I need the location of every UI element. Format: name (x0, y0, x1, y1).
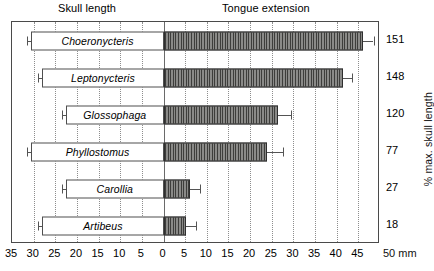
tongue-error-cap (291, 110, 292, 119)
x-axis-tick-label: 10 (200, 247, 212, 259)
skull-error-cap (38, 73, 39, 82)
tongue-extension-bar[interactable] (164, 31, 363, 50)
species-row: Choeronycteris (12, 22, 378, 59)
pct-max-skull-length-value: 27 (386, 181, 398, 193)
skull-length-bar[interactable]: Artibeus (42, 216, 163, 235)
species-row: Artibeus (12, 207, 378, 244)
pct-max-skull-length-value: 18 (386, 218, 398, 230)
species-label: Phyllostomus (66, 146, 130, 158)
x-axis-tick-label: 30 (27, 247, 39, 259)
x-axis-tick-label: 5 (181, 247, 187, 259)
species-row: Carollia (12, 170, 378, 207)
bars-layer: ChoeronycterisLeptonycterisGlossophagaPh… (12, 22, 378, 242)
x-axis-tick-label: 5 (138, 247, 144, 259)
x-axis-unit-label: 50 mm (383, 247, 417, 259)
tongue-error-cap (196, 221, 197, 230)
skull-error-cap (62, 110, 63, 119)
skull-error-cap (27, 36, 28, 45)
x-axis-tick-label: 20 (243, 247, 255, 259)
tongue-error-cap (283, 147, 284, 156)
x-axis-tick-label: 25 (265, 247, 277, 259)
species-label: Carollia (97, 183, 133, 195)
tongue-extension-bar[interactable] (164, 105, 279, 124)
skull-length-bar[interactable]: Glossophaga (66, 105, 163, 124)
right-axis-title: % max. skull length (422, 92, 434, 186)
x-axis-tick-label: 30 (286, 247, 298, 259)
x-axis-tick-label: 40 (330, 247, 342, 259)
skull-length-bar[interactable]: Carollia (66, 179, 163, 198)
tongue-extension-bar[interactable] (164, 216, 187, 235)
x-axis-tick-label: 25 (48, 247, 60, 259)
x-axis-tick-label: 15 (91, 247, 103, 259)
left-panel-title: Skull length (58, 2, 116, 14)
x-axis-tick-label: 35 (5, 247, 17, 259)
pct-max-skull-length-value: 120 (386, 107, 404, 119)
tongue-extension-bar[interactable] (164, 142, 268, 161)
tongue-error-bar (267, 152, 282, 153)
x-axis-tick-label: 45 (351, 247, 363, 259)
species-label: Choeronycteris (61, 35, 133, 47)
tongue-extension-bar[interactable] (164, 68, 344, 87)
right-panel-title: Tongue extension (222, 2, 310, 14)
species-label: Artibeus (83, 220, 122, 232)
x-axis-tick-label: 10 (113, 247, 125, 259)
tongue-error-cap (374, 36, 375, 45)
skull-error-cap (27, 147, 28, 156)
tongue-error-bar (190, 189, 200, 190)
species-label: Glossophaga (83, 109, 146, 121)
tongue-error-bar (363, 41, 374, 42)
pct-max-skull-length-value: 148 (386, 70, 404, 82)
tongue-error-bar (278, 115, 291, 116)
tongue-error-bar (343, 78, 352, 79)
pct-max-skull-length-value: 77 (386, 144, 398, 156)
tongue-error-bar (186, 226, 196, 227)
pct-max-skull-length-value: 151 (386, 33, 404, 45)
skull-length-bar[interactable]: Leptonycteris (42, 68, 163, 87)
skull-length-bar[interactable]: Phyllostomus (31, 142, 163, 161)
tongue-error-cap (352, 73, 353, 82)
x-axis-tick-label: 35 (308, 247, 320, 259)
x-axis-tick-label: 20 (70, 247, 82, 259)
species-label: Leptonycteris (71, 72, 135, 84)
skull-error-cap (38, 221, 39, 230)
skull-error-cap (62, 184, 63, 193)
plot-area: ChoeronycterisLeptonycterisGlossophagaPh… (11, 21, 379, 243)
tongue-error-cap (200, 184, 201, 193)
species-row: Glossophaga (12, 96, 378, 133)
species-row: Leptonycteris (12, 59, 378, 96)
skull-length-bar[interactable]: Choeronycteris (31, 31, 163, 50)
species-row: Phyllostomus (12, 133, 378, 170)
x-axis-tick-label: 0 (159, 247, 165, 259)
x-axis-tick-label: 15 (221, 247, 233, 259)
tongue-extension-bar[interactable] (164, 179, 191, 198)
